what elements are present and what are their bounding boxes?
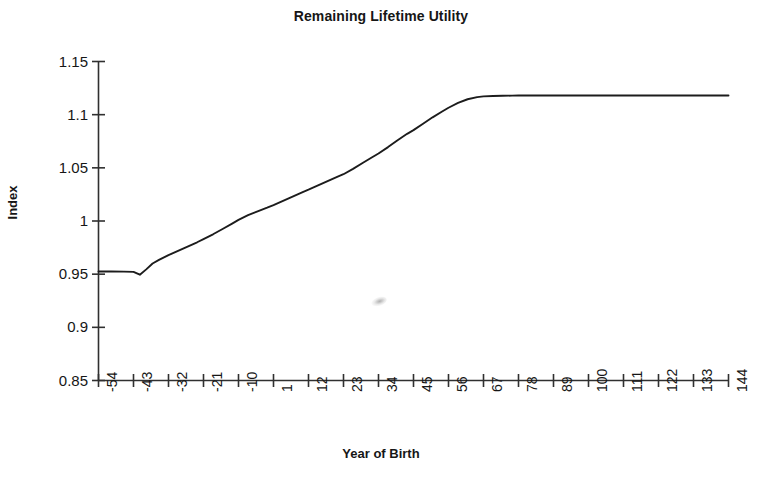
data-series-group xyxy=(99,96,729,275)
x-tick-label: -32 xyxy=(174,332,190,392)
x-tick-label: 56 xyxy=(454,332,470,392)
chart-container: Remaining Lifetime Utility Index Year of… xyxy=(0,0,762,481)
x-tick-label: 100 xyxy=(594,332,610,392)
x-tick-label: 1 xyxy=(279,332,295,392)
x-tick-label: 23 xyxy=(349,332,365,392)
x-tick-label: 133 xyxy=(699,332,715,392)
x-tick-label: -21 xyxy=(209,332,225,392)
y-tick-label: 1.1 xyxy=(28,106,88,124)
x-tick-label: 144 xyxy=(734,332,750,392)
x-tick-label: 78 xyxy=(524,332,540,392)
y-tick-label: 1.15 xyxy=(28,53,88,71)
x-tick-label: 111 xyxy=(629,332,645,392)
y-tick-label: 0.95 xyxy=(28,265,88,283)
x-tick-label: 34 xyxy=(384,332,400,392)
x-tick-label: 45 xyxy=(419,332,435,392)
x-tick-label: 89 xyxy=(559,332,575,392)
x-tick-label: 67 xyxy=(489,332,505,392)
x-tick-label: -43 xyxy=(139,332,155,392)
data-line-series xyxy=(99,96,729,275)
y-tick-label: 1.05 xyxy=(28,159,88,177)
x-tick-label: -10 xyxy=(244,332,260,392)
plot-area xyxy=(0,0,762,481)
x-tick-label: 12 xyxy=(314,332,330,392)
y-tick-label: 0.9 xyxy=(28,318,88,336)
x-tick-label: -54 xyxy=(104,332,120,392)
y-tick-label: 1 xyxy=(28,212,88,230)
y-tick-label: 0.85 xyxy=(28,372,88,390)
x-tick-label: 122 xyxy=(664,332,680,392)
